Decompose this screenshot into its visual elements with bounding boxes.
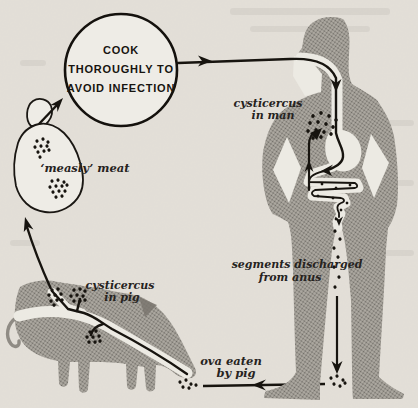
cook-warning-circle-group: COOK THOROUGHLY TO AVOID INFECTION: [65, 14, 177, 126]
label-cysticercus-in-pig-2: in pig: [104, 291, 140, 304]
label-segments-discharged-1: segments discharged: [232, 258, 363, 271]
label-measly-meat: ‘measly’ meat: [40, 161, 130, 175]
circle-text-line3: AVOID INFECTION: [67, 82, 175, 94]
label-ova-eaten-2: by pig: [216, 366, 255, 380]
circle-text-line1: COOK: [103, 44, 139, 56]
circle-text-line2: THOROUGHLY TO: [68, 63, 174, 75]
tapeworm-lifecycle-diagram: COOK THOROUGHLY TO AVOID INFECTION: [0, 0, 418, 408]
scanned-diagram-page: COOK THOROUGHLY TO AVOID INFECTION: [0, 0, 418, 408]
label-cysticercus-in-man-2: in man: [252, 109, 295, 122]
label-segments-discharged-2: from anus: [258, 271, 322, 284]
